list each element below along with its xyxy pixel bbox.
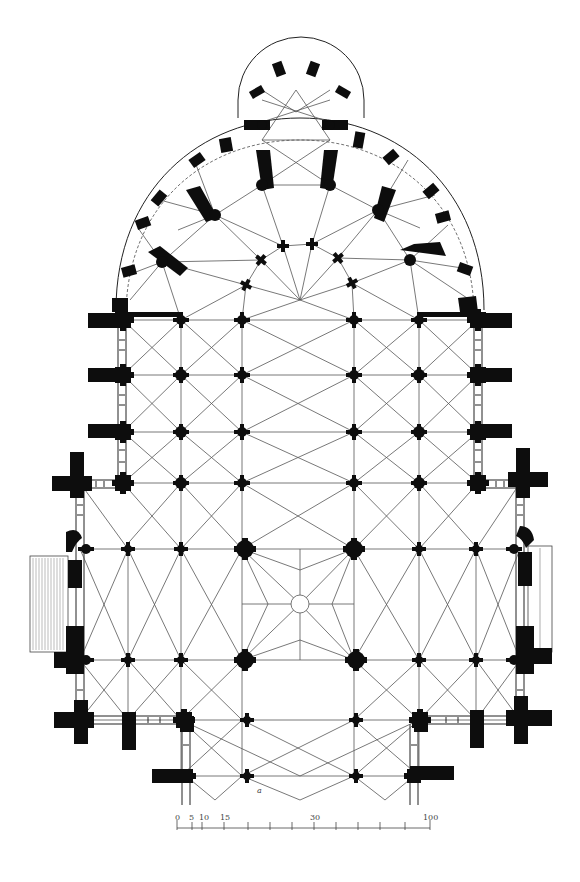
crossing-boss-ring [291, 595, 309, 613]
scale-label-5: 5 [189, 813, 194, 822]
scale-label-10: 10 [199, 813, 209, 822]
apse-ribs [128, 90, 470, 320]
scale-label-15: 15 [220, 813, 230, 822]
outer-walls [76, 37, 524, 805]
scale-bar: 0 5 10 15 30 100 [175, 813, 438, 830]
cathedral-floor-plan: a 0 5 10 15 30 100 [0, 0, 580, 882]
window-ticks [77, 340, 523, 745]
left-porch-hatching [30, 556, 68, 652]
scale-label-100: 100 [423, 813, 438, 822]
annotation-letter: a [257, 786, 262, 795]
scale-label-30: 30 [310, 813, 320, 822]
scale-label-0: 0 [175, 813, 180, 822]
vault-ribs [80, 320, 520, 800]
